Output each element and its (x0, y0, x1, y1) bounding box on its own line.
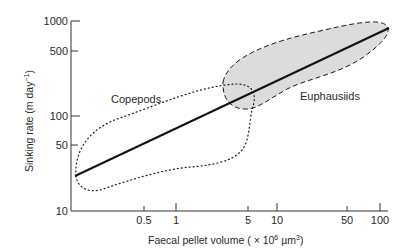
x-tick-label: 1 (173, 214, 179, 226)
x-tick-label: 100 (371, 214, 389, 226)
x-tick-label: 5 (245, 214, 251, 226)
y-tick-label: 50 (56, 139, 68, 151)
y-tick-label: 1000 (44, 15, 68, 27)
y-tick-label: 500 (50, 45, 68, 57)
euphausiids-label: Euphausiids (300, 90, 360, 102)
chart-canvas: 1000 500 100 50 10 0.5 1 5 10 50 100 Fae… (0, 0, 410, 252)
x-ticks (144, 203, 380, 211)
copepods-label: Copepods (111, 93, 162, 105)
x-tick-label: 50 (341, 214, 353, 226)
x-tick-label: 0.5 (136, 214, 151, 226)
y-ticks (71, 21, 80, 145)
y-tick-label: 100 (50, 110, 68, 122)
x-tick-label: 10 (271, 214, 283, 226)
y-tick-label: 10 (56, 205, 68, 217)
x-axis-title: Faecal pellet volume ( × 106 µm3) (148, 234, 303, 246)
y-axis-title: Sinking rate (m day−1) (23, 70, 35, 172)
